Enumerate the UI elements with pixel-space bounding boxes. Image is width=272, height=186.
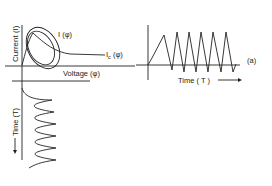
bottom-plot-time-label: Time (T): [11, 107, 20, 136]
inner-loop: [22, 26, 60, 69]
bottom-plot-waveform: [22, 88, 56, 168]
right-plot-time-label: Time ( T ): [178, 76, 210, 85]
current-axis-label: Current (I): [11, 25, 20, 62]
right-plot-waveform: [148, 32, 236, 72]
right-time-arrow-head: [238, 78, 242, 82]
diagram-canvas: Current (I) I (φ) Ic (φ) Voltage (φ) Tim…: [0, 0, 272, 186]
bottom-time-arrow-head: [13, 150, 17, 154]
ic-phi-label: Ic (φ): [106, 50, 123, 60]
i-phi-label: I (φ): [58, 30, 73, 39]
figure-label-a: (a): [247, 56, 257, 65]
voltage-axis-label: Voltage (φ): [63, 69, 100, 78]
